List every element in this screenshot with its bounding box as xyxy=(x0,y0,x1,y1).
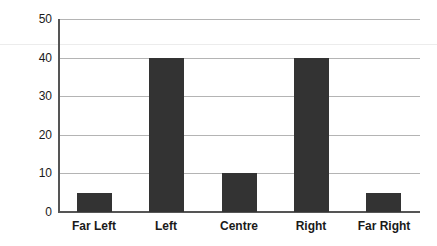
y-tick: 20 xyxy=(0,129,52,141)
y-tick-label: 0 xyxy=(4,206,52,218)
x-tick-label: Left xyxy=(130,219,202,233)
bar xyxy=(77,193,112,212)
y-axis-line xyxy=(58,19,60,213)
x-tick-label: Far Right xyxy=(348,219,420,233)
y-tick-label: 10 xyxy=(4,167,52,179)
y-tick: 0 xyxy=(0,206,52,218)
y-tick-label: 50 xyxy=(4,13,52,25)
bar xyxy=(366,193,401,212)
y-tick: 30 xyxy=(0,90,52,102)
gridline xyxy=(58,96,420,97)
plot-area: 01020304050 Far LeftLeftCentreRightFar R… xyxy=(0,0,437,246)
bar xyxy=(149,58,184,212)
gridline xyxy=(58,58,420,59)
x-tick-label: Centre xyxy=(203,219,275,233)
y-tick-label: 20 xyxy=(4,129,52,141)
y-tick: 10 xyxy=(0,167,52,179)
gridline xyxy=(58,135,420,136)
x-tick-label: Right xyxy=(275,219,347,233)
y-tick: 40 xyxy=(0,52,52,64)
bar-chart: 01020304050 Far LeftLeftCentreRightFar R… xyxy=(0,0,437,246)
y-tick: 50 xyxy=(0,13,52,25)
y-tick-label: 40 xyxy=(4,52,52,64)
x-tick-label: Far Left xyxy=(58,219,130,233)
y-tick-label: 30 xyxy=(4,90,52,102)
gridline xyxy=(58,19,420,20)
bar xyxy=(222,173,257,212)
bar xyxy=(294,58,329,212)
